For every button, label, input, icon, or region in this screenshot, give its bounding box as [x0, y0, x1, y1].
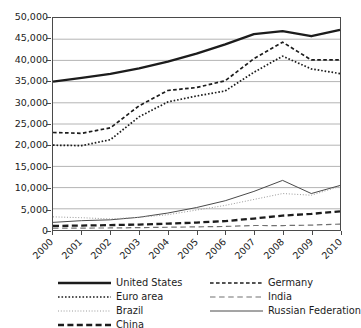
- legend-swatch-icon: [58, 319, 111, 328]
- y-tick-mark: [46, 81, 51, 82]
- data-series: [53, 30, 340, 228]
- series-line-germany: [53, 42, 340, 133]
- y-tick-mark: [46, 38, 51, 39]
- cropped-title-sliver: [18, 0, 338, 3]
- y-tick-label: 15,000: [0, 162, 48, 172]
- y-tick-mark: [46, 145, 51, 146]
- x-tick-label: 2007: [233, 237, 257, 261]
- y-axis: 50,00045,00040,00035,00030,00025,00020,0…: [0, 0, 48, 231]
- legend-item-united-states[interactable]: United States: [58, 276, 182, 289]
- x-tick-mark: [110, 231, 111, 235]
- legend-item-germany[interactable]: Germany: [210, 276, 313, 289]
- legend-item-china[interactable]: China: [58, 318, 144, 328]
- x-tick-mark: [81, 231, 82, 235]
- series-line-united-states: [53, 30, 340, 82]
- x-tick-label: 2008: [262, 237, 286, 261]
- y-tick-mark: [46, 103, 51, 104]
- x-tick-label: 2000: [31, 237, 55, 261]
- x-tick-label: 2002: [89, 237, 113, 261]
- gridlines: [53, 39, 340, 209]
- series-line-euro-area: [53, 56, 340, 145]
- x-axis: 2000200120022003200420052006200720082009…: [0, 231, 354, 275]
- y-tick-label: 35,000: [0, 76, 48, 86]
- legend-label: United States: [116, 277, 182, 289]
- x-tick-label: 2005: [176, 237, 200, 261]
- x-tick-label: 2009: [291, 237, 315, 261]
- series-layer: [53, 18, 340, 230]
- series-line-russian-federation: [53, 180, 340, 222]
- x-tick-label: 2001: [60, 237, 84, 261]
- series-line-china: [53, 211, 340, 226]
- legend-item-india[interactable]: India: [210, 290, 292, 303]
- x-tick-mark: [197, 231, 198, 235]
- y-tick-mark: [46, 210, 51, 211]
- x-tick-label: 2010: [320, 237, 344, 261]
- plot-area: [52, 17, 341, 231]
- x-tick-label: 2004: [147, 237, 171, 261]
- legend-swatch-icon: [58, 277, 111, 289]
- y-tick-label: 5,000: [0, 205, 48, 215]
- y-tick-label: 25,000: [0, 119, 48, 129]
- y-tick-mark: [46, 60, 51, 61]
- y-tick-mark: [46, 188, 51, 189]
- legend-label: Russian Federation: [268, 305, 361, 317]
- x-tick-mark: [52, 231, 53, 235]
- legend-swatch-icon: [210, 305, 263, 317]
- legend-label: China: [116, 319, 144, 328]
- series-line-brazil: [53, 186, 340, 219]
- y-tick-label: 45,000: [0, 33, 48, 43]
- y-tick-label: 30,000: [0, 98, 48, 108]
- x-tick-mark: [168, 231, 169, 235]
- legend-item-euro-area[interactable]: Euro area: [58, 290, 163, 303]
- x-tick-mark: [139, 231, 140, 235]
- legend-swatch-icon: [210, 291, 263, 303]
- y-tick-mark: [46, 167, 51, 168]
- x-tick-mark: [312, 231, 313, 235]
- legend-swatch-icon: [58, 291, 111, 303]
- y-tick-label: 40,000: [0, 55, 48, 65]
- x-tick-label: 2003: [118, 237, 142, 261]
- x-tick-mark: [341, 231, 342, 235]
- y-tick-label: 20,000: [0, 140, 48, 150]
- x-tick-label: 2006: [204, 237, 228, 261]
- legend-label: Brazil: [116, 305, 143, 317]
- y-tick-label: 50,000: [0, 12, 48, 22]
- legend-label: Germany: [268, 277, 313, 289]
- legend-label: India: [268, 291, 292, 303]
- legend-label: Euro area: [116, 291, 163, 303]
- legend-swatch-icon: [210, 277, 263, 289]
- legend-swatch-icon: [58, 305, 111, 317]
- y-tick-label: 10,000: [0, 183, 48, 193]
- x-tick-mark: [225, 231, 226, 235]
- legend-item-russian-federation[interactable]: Russian Federation: [210, 304, 361, 317]
- x-tick-mark: [254, 231, 255, 235]
- chart-legend: United StatesEuro areaBrazilChinaGermany…: [58, 276, 348, 326]
- legend-item-brazil[interactable]: Brazil: [58, 304, 143, 317]
- y-tick-mark: [46, 17, 51, 18]
- x-tick-mark: [283, 231, 284, 235]
- y-tick-mark: [46, 124, 51, 125]
